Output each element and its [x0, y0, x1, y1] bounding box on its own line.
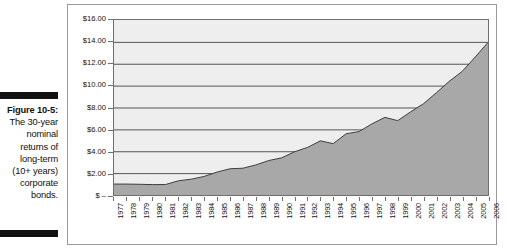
x-axis-tick-label: 1984	[207, 203, 216, 219]
x-axis-tick-label: 1989	[272, 203, 281, 219]
x-axis-tick-label: 1991	[298, 203, 307, 219]
plot-area	[113, 19, 489, 196]
caption-block: Figure 10-5:The 30-yearnominalreturns of…	[0, 92, 60, 202]
x-axis-tick-mark	[217, 197, 218, 201]
x-axis-tick-label: 1986	[233, 203, 242, 219]
caption-line: The 30-year	[10, 117, 58, 127]
x-axis-tick-label: 1996	[362, 203, 371, 219]
x-axis-tick-mark	[437, 197, 438, 201]
caption-line: long-term	[20, 154, 58, 164]
y-axis-tick-label: $4.00	[54, 148, 106, 156]
x-axis-tick-label: 1988	[259, 203, 268, 219]
caption-line: corporate	[20, 178, 58, 188]
x-axis-tick-mark	[359, 197, 360, 201]
x-axis-tick-label: 1982	[181, 203, 190, 219]
x-axis-tick-label: 1993	[323, 203, 332, 219]
x-axis-tick-mark	[152, 197, 153, 201]
x-axis-tick-label: 1994	[336, 203, 345, 219]
x-axis-tick-mark	[333, 197, 334, 201]
x-axis-tick-label: 1983	[194, 203, 203, 219]
figure-container: Figure 10-5:The 30-yearnominalreturns of…	[0, 0, 507, 249]
figure-number: Figure 10-5:	[7, 105, 58, 115]
caption-rule-top	[0, 92, 58, 99]
x-axis-tick-label: 1995	[349, 203, 358, 219]
x-axis-tick-label: 2002	[440, 203, 449, 219]
figure-caption: Figure 10-5:The 30-yearnominalreturns of…	[0, 99, 58, 202]
caption-rule-bottom	[0, 230, 58, 237]
x-axis-tick-mark	[165, 197, 166, 201]
y-axis-tick-label: $2.00	[54, 170, 106, 178]
x-axis-tick-label: 1990	[285, 203, 294, 219]
x-axis-tick-mark	[256, 197, 257, 201]
x-axis-tick-mark	[450, 197, 451, 201]
x-axis: 1977197819791980198119821983198419851986…	[113, 197, 489, 245]
x-axis-tick-mark	[295, 197, 296, 201]
x-axis-tick-mark	[307, 197, 308, 201]
x-axis-tick-mark	[139, 197, 140, 201]
x-axis-tick-mark	[385, 197, 386, 201]
area-chart-svg	[114, 20, 488, 195]
y-axis-tick-label: $8.00	[54, 104, 106, 112]
x-axis-tick-mark	[372, 197, 373, 201]
x-axis-tick-label: 1981	[168, 203, 177, 219]
x-axis-tick-mark	[113, 197, 114, 201]
area-series-fill	[114, 42, 488, 195]
y-axis-tick-label: $ –	[54, 192, 106, 200]
x-axis-tick-mark	[476, 197, 477, 201]
x-axis-tick-label: 1997	[375, 203, 384, 219]
x-axis-tick-mark	[320, 197, 321, 201]
x-axis-tick-mark	[424, 197, 425, 201]
x-axis-tick-label: 1985	[220, 203, 229, 219]
x-axis-tick-label: 2005	[479, 203, 488, 219]
x-axis-tick-mark	[126, 197, 127, 201]
x-axis-tick-mark	[398, 197, 399, 201]
x-axis-tick-label: 1998	[388, 203, 397, 219]
x-axis-tick-label: 2000	[414, 203, 423, 219]
x-axis-tick-mark	[489, 197, 490, 201]
y-axis-tick-label: $12.00	[54, 59, 106, 67]
x-axis-tick-label: 2001	[427, 203, 436, 219]
x-axis-tick-label: 2006	[492, 203, 501, 219]
x-axis-tick-mark	[346, 197, 347, 201]
x-axis-tick-mark	[282, 197, 283, 201]
x-axis-tick-mark	[204, 197, 205, 201]
x-axis-tick-mark	[178, 197, 179, 201]
x-axis-tick-label: 1992	[310, 203, 319, 219]
x-axis-tick-mark	[191, 197, 192, 201]
x-axis-tick-label: 1978	[129, 203, 138, 219]
x-axis-tick-label: 1999	[401, 203, 410, 219]
y-axis-tick-label: $10.00	[54, 81, 106, 89]
y-axis-tick-label: $14.00	[54, 37, 106, 45]
x-axis-tick-label: 1977	[116, 203, 125, 219]
caption-line: (10+ years)	[12, 166, 58, 176]
caption-line: returns of	[20, 142, 58, 152]
y-axis-tick-label: $16.00	[54, 15, 106, 23]
x-axis-tick-label: 1987	[246, 203, 255, 219]
x-axis-tick-label: 2003	[453, 203, 462, 219]
x-axis-tick-mark	[230, 197, 231, 201]
x-axis-tick-mark	[411, 197, 412, 201]
x-axis-tick-label: 1979	[142, 203, 151, 219]
y-axis-tick-label: $6.00	[54, 126, 106, 134]
x-axis-tick-label: 1980	[155, 203, 164, 219]
x-axis-tick-label: 2004	[466, 203, 475, 219]
x-axis-tick-mark	[269, 197, 270, 201]
x-axis-tick-mark	[243, 197, 244, 201]
figure-frame: $16.00$14.00$12.00$10.00$8.00$6.00$4.00$…	[67, 4, 497, 245]
x-axis-tick-mark	[463, 197, 464, 201]
